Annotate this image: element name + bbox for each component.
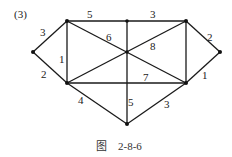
weight-b-f: 1 [59, 53, 65, 65]
weight-f-d: 8 [150, 40, 156, 52]
caption-prefix: 图 [96, 140, 107, 152]
weight-b-c: 5 [87, 8, 93, 20]
weight-b-h: 6 [106, 31, 112, 43]
weight-a-f: 2 [41, 68, 47, 80]
vertex-a [31, 50, 35, 54]
vertex-b [65, 19, 69, 23]
vertex-i [125, 122, 129, 126]
weight-c-i: 5 [128, 96, 134, 108]
graph-diagram: 3 2 1 5 3 2 1 6 8 5 7 4 3 (3) 图 2-8-6 [0, 0, 232, 157]
weight-c-d: 3 [150, 8, 156, 20]
vertex-e [218, 50, 222, 54]
weight-f-i: 4 [78, 94, 84, 106]
weight-d-e: 2 [207, 31, 213, 43]
figure-caption: 图 2-8-6 [96, 140, 142, 152]
edge-d-e [186, 21, 220, 52]
vertex-f [65, 81, 69, 85]
vertex-c [125, 19, 129, 23]
edges [33, 21, 220, 124]
figure-tag: (3) [14, 8, 27, 21]
edge-f-i [67, 83, 127, 124]
weight-e-h: 1 [202, 69, 208, 81]
edge-h-i [127, 83, 186, 124]
weight-f-h: 7 [143, 71, 149, 83]
vertex-d [184, 19, 188, 23]
weight-a-b: 3 [40, 26, 46, 38]
weight-h-i: 3 [164, 98, 170, 110]
caption-number: 2-8-6 [118, 140, 142, 152]
vertex-h [184, 81, 188, 85]
edge-a-b [33, 21, 67, 52]
vertex-g [125, 50, 129, 54]
